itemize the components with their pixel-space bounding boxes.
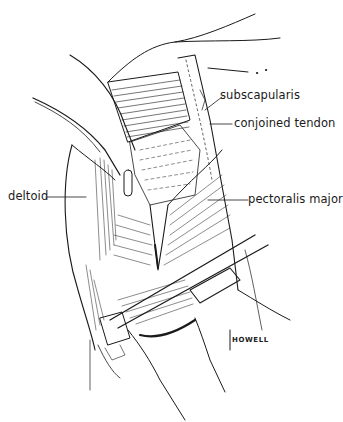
label-pectoralis-major: pectoralis major (248, 194, 343, 206)
label-conjoined-tendon: conjoined tendon (234, 118, 336, 130)
label-subscapularis: subscapularis (220, 90, 300, 102)
label-deltoid: deltoid (8, 191, 48, 203)
artist-signature: HOWELL (232, 336, 269, 344)
